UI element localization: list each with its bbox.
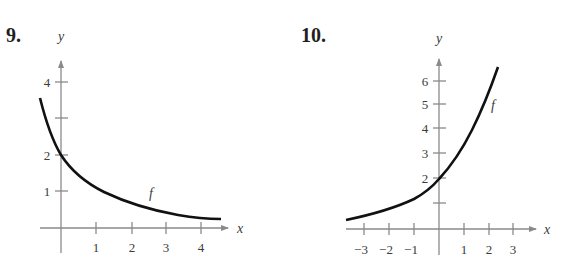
y-tick-label: 2 (422, 171, 429, 186)
curve-label-f: f (149, 186, 155, 201)
x-tick-label: 1 (461, 242, 468, 257)
y-tick-label: 3 (422, 146, 429, 161)
x-tick-label: 1 (93, 240, 100, 255)
x-tick-label: −3 (354, 242, 368, 257)
x-axis-label: x (543, 222, 551, 237)
curve-label-f: f (491, 98, 497, 113)
y-tick-label: 4 (422, 121, 429, 136)
x-tick-label: 2 (129, 240, 136, 255)
y-tick-label: 5 (422, 97, 429, 112)
x-axis-label: x (236, 221, 244, 236)
y-tick-label: 1 (44, 184, 51, 199)
y-tick-label: 6 (422, 74, 429, 89)
graph-9: 1 2 3 4 1 2 4 x y f (40, 29, 244, 255)
y-tick-label: 2 (44, 148, 51, 163)
x-tick-label: 2 (486, 242, 493, 257)
x-tick-label: 4 (198, 240, 205, 255)
graphs: 1 2 3 4 1 2 4 x y f −3 −2 −1 (0, 0, 575, 280)
y-axis-label: y (56, 29, 65, 44)
x-tick-label: −2 (379, 242, 393, 257)
x-tick-label: 3 (163, 240, 170, 255)
graph-10: −3 −2 −1 1 2 3 2 3 4 5 6 x y f (346, 31, 551, 257)
x-tick-label: 3 (510, 242, 517, 257)
y-tick-label: 4 (44, 75, 51, 90)
curve-f (346, 67, 498, 220)
curve-f (40, 98, 221, 219)
y-axis-label: y (434, 31, 443, 46)
x-tick-label: −1 (404, 242, 418, 257)
